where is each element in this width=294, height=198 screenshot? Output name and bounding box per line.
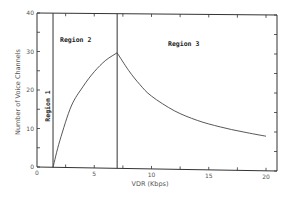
x-ticks	[66, 13, 266, 171]
data-line	[53, 53, 266, 168]
top-axis	[37, 13, 277, 15]
svg-text:40: 40	[26, 9, 34, 16]
svg-text:30: 30	[26, 48, 34, 55]
y-tick-labels: 010203040	[26, 9, 34, 170]
x-axis	[37, 167, 277, 171]
svg-text:20: 20	[262, 173, 270, 180]
svg-text:5: 5	[92, 170, 96, 177]
region-2-label: Region 2	[60, 36, 91, 44]
region-1-label: Region 1	[44, 90, 52, 121]
region-3-label: Region 3	[168, 40, 199, 48]
svg-text:0: 0	[35, 169, 39, 176]
chart: 010203040 05101520 VDR (Kbps) Number of …	[0, 0, 294, 198]
svg-text:15: 15	[205, 172, 213, 179]
svg-text:0: 0	[30, 163, 34, 170]
svg-text:10: 10	[26, 125, 34, 132]
y-axis-title: Number of Voice Channels	[14, 48, 22, 135]
svg-text:20: 20	[26, 86, 34, 93]
svg-text:10: 10	[148, 171, 156, 178]
x-axis-title: VDR (Kbps)	[131, 180, 168, 188]
